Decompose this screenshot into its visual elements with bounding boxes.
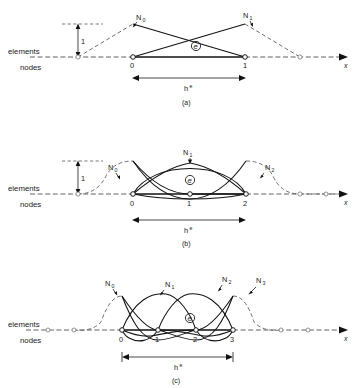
shape-label-N0-a: N <box>136 13 141 22</box>
side-label-elements-b: elements <box>8 184 40 193</box>
label-N2-c: N 2 <box>218 275 232 292</box>
axis-label-b: x <box>343 199 348 206</box>
span-sup-a: e <box>190 83 193 89</box>
shape-sub-N0-a: 0 <box>143 17 146 23</box>
panel-caption-b: (b) <box>182 240 191 248</box>
span-dimension-b: h e <box>132 217 246 235</box>
shape-function-figure: 1 x 0 1 e N 0 <box>0 0 360 388</box>
axis-label-a: x <box>343 62 348 69</box>
element-symbol-c: e <box>185 313 194 322</box>
label-N1-b: N 1 <box>183 148 193 164</box>
node-marker-outer <box>279 328 283 332</box>
shape-sub-N0-c: 0 <box>112 283 115 289</box>
neighbor-curve-left-c <box>74 296 122 330</box>
unit-label-b: 1 <box>81 174 85 183</box>
shape-sub-N1-c: 1 <box>172 284 175 290</box>
axis-arrow-b <box>339 190 348 197</box>
node-marker <box>131 192 136 197</box>
node-label-1-b: 1 <box>187 199 191 208</box>
shape-label-N3-c: N <box>256 276 261 285</box>
node-marker <box>243 55 248 60</box>
node-marker <box>188 192 193 197</box>
node-marker <box>156 328 161 333</box>
node-marker-outer <box>298 192 302 196</box>
shape-function-N3-c <box>158 296 233 340</box>
panel-caption-c: (c) <box>172 377 180 385</box>
node-marker <box>194 328 199 333</box>
element-symbol-text-b: e <box>187 176 191 185</box>
neighbor-hat-right-a <box>245 24 300 57</box>
shape-sub-N1-a: 1 <box>250 15 253 21</box>
unit-dimension-b: 1 <box>76 161 86 195</box>
node-label-2-b: 2 <box>243 199 247 208</box>
span-label-b: h <box>184 226 188 235</box>
node-marker <box>120 328 125 333</box>
node-label-0-c: 0 <box>119 335 123 344</box>
shape-label-N1-c: N <box>165 280 170 289</box>
neighbor-curve-left-b <box>78 161 133 194</box>
element-symbol-text-a: e <box>193 42 197 51</box>
shape-label-N2-c: N <box>222 275 227 284</box>
span-sup-c: e <box>180 362 183 368</box>
shape-label-N2-b: N <box>265 163 270 172</box>
side-label-elements-a: elements <box>8 47 40 56</box>
neighbor-curve-right-b <box>246 161 300 194</box>
node-marker-outer <box>324 192 328 196</box>
panel-a: 1 x 0 1 e N 0 <box>30 11 348 107</box>
label-N1-c: N 1 <box>160 280 175 296</box>
side-label-nodes-c: nodes <box>20 336 41 345</box>
node-marker-outer <box>46 328 50 332</box>
span-sup-b: e <box>190 225 193 231</box>
node-label-1-a: 1 <box>243 61 247 70</box>
shape-sub-N2-b: 2 <box>272 167 275 173</box>
axis-arrow-a <box>339 53 348 60</box>
label-N0-c: N 0 <box>105 279 117 296</box>
unit-dimension-a: 1 <box>76 24 86 58</box>
node-label-2-c: 2 <box>193 335 197 344</box>
element-symbol-text-c: e <box>187 314 191 323</box>
label-N0-b: N 0 <box>108 163 120 180</box>
shape-sub-N0-b: 0 <box>115 167 118 173</box>
node-marker-outer <box>306 328 310 332</box>
shape-label-N1-a: N <box>243 11 248 20</box>
panel-c: x 0 1 2 3 e <box>26 275 348 385</box>
panel-caption-a: (a) <box>182 99 191 107</box>
label-N3-c: N 3 <box>248 276 265 295</box>
node-marker <box>131 55 136 60</box>
side-label-elements-c: elements <box>8 320 40 329</box>
node-marker-outer <box>298 55 302 59</box>
node-marker-outer <box>76 192 80 196</box>
element-symbol-b: e <box>185 175 194 184</box>
node-label-1-c: 1 <box>155 335 159 344</box>
span-label-a: h <box>184 84 188 93</box>
node-marker <box>244 192 249 197</box>
shape-cross-left-b <box>133 163 190 194</box>
span-dimension-c: h e <box>122 352 233 372</box>
node-marker-outer <box>72 328 76 332</box>
shape-label-N0-b: N <box>108 163 113 172</box>
shape-function-N0-c <box>122 296 196 340</box>
side-label-nodes-b: nodes <box>20 200 41 209</box>
shape-sub-N3-c: 3 <box>263 280 266 286</box>
node-label-3-c: 3 <box>230 335 234 344</box>
node-label-0-a: 0 <box>130 61 134 70</box>
shape-label-N0-c: N <box>105 279 110 288</box>
unit-label-a: 1 <box>81 37 85 46</box>
panel-b: 1 x 0 1 2 e <box>30 148 348 248</box>
node-marker <box>231 328 236 333</box>
element-symbol-a: e <box>191 41 200 50</box>
axis-label-c: x <box>343 335 348 342</box>
side-labels: elements nodes elements nodes elements n… <box>8 47 41 345</box>
side-label-nodes-a: nodes <box>20 63 41 72</box>
node-marker-outer <box>76 55 80 59</box>
neighbor-curve-right-c <box>233 296 281 330</box>
shape-sub-N1-b: 1 <box>190 152 193 158</box>
neighbor-hat-left-a <box>78 24 133 57</box>
shape-sub-N2-c: 2 <box>229 279 232 285</box>
span-dimension-a: h e <box>132 75 246 93</box>
label-N2-b: N 2 <box>260 163 275 179</box>
span-label-c: h <box>174 363 178 372</box>
node-label-0-b: 0 <box>130 199 134 208</box>
axis-arrow-c <box>339 326 348 333</box>
shape-label-N1-b: N <box>183 148 188 157</box>
